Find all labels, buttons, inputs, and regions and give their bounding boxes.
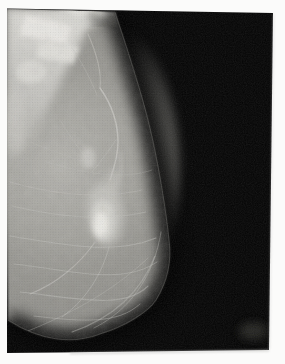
mammogram-image <box>0 0 285 364</box>
scan-page <box>0 0 285 364</box>
film-grain-overlay <box>7 9 273 353</box>
